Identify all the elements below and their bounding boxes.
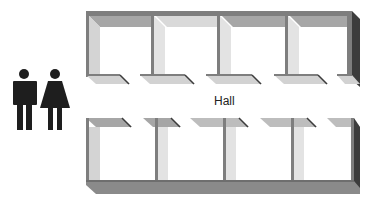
bottom-row-rooms — [86, 118, 360, 194]
top-row-rooms — [86, 11, 360, 87]
restroom-icon — [13, 69, 70, 130]
woman-icon — [40, 69, 70, 130]
floor-plan-graphic — [0, 0, 378, 208]
man-icon — [13, 69, 37, 130]
hall-label: Hall — [214, 94, 235, 108]
floor-plan-diagram: Hall — [0, 0, 378, 208]
